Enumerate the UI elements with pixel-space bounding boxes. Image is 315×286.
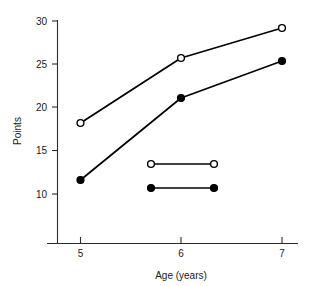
chart-figure: 30 25 20 15 10 5 6 7 Age (years) Points bbox=[0, 0, 315, 286]
data-point-filled-age-7 bbox=[279, 58, 286, 65]
y-tick-label-20: 20 bbox=[36, 102, 48, 113]
y-tick-label-10: 10 bbox=[36, 189, 48, 200]
data-point-open-age-6 bbox=[178, 55, 185, 62]
series-line-open-circle bbox=[81, 28, 283, 123]
x-tick-label-5: 5 bbox=[78, 248, 84, 259]
x-tick-label-7: 7 bbox=[279, 248, 285, 259]
legend-entry-filled-circle bbox=[148, 185, 218, 192]
x-tick-label-6: 6 bbox=[178, 248, 184, 259]
data-point-open-age-7 bbox=[279, 25, 286, 32]
data-point-filled-age-6 bbox=[178, 95, 185, 102]
legend-entry-open-circle bbox=[148, 161, 218, 168]
y-tick-label-25: 25 bbox=[36, 59, 48, 70]
y-axis-title: Points bbox=[12, 117, 23, 145]
legend-marker-open-left bbox=[148, 161, 155, 168]
legend-marker-filled-right bbox=[211, 185, 218, 192]
line-chart: 30 25 20 15 10 5 6 7 Age (years) Points bbox=[0, 0, 315, 286]
legend-marker-open-right bbox=[211, 161, 218, 168]
y-tick-label-30: 30 bbox=[36, 16, 48, 27]
data-point-open-age-5 bbox=[77, 120, 84, 127]
y-tick-label-15: 15 bbox=[36, 145, 48, 156]
x-axis-title: Age (years) bbox=[155, 270, 207, 281]
data-point-filled-age-5 bbox=[77, 177, 84, 184]
legend-marker-filled-left bbox=[148, 185, 155, 192]
series-line-filled-circle bbox=[81, 61, 283, 180]
